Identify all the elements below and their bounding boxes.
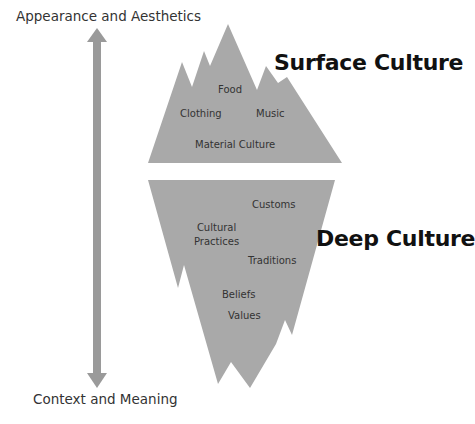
deep-iceberg-shape	[148, 180, 335, 388]
surface-item-clothing: Clothing	[180, 108, 222, 119]
deep-item-cultural-practices: Cultural Practices	[194, 221, 239, 249]
cultural-practices-line-1: Cultural	[194, 221, 239, 235]
cultural-practices-line-2: Practices	[194, 235, 239, 249]
surface-culture-title: Surface Culture	[274, 50, 463, 75]
deep-item-values: Values	[228, 310, 261, 321]
deep-item-beliefs: Beliefs	[222, 289, 255, 300]
surface-item-material-culture: Material Culture	[195, 139, 275, 150]
deep-culture-title: Deep Culture	[316, 226, 475, 251]
axis-bottom-label: Context and Meaning	[33, 391, 178, 407]
double-arrow-icon	[87, 28, 107, 388]
axis-top-label: Appearance and Aesthetics	[16, 8, 201, 24]
deep-item-traditions: Traditions	[248, 255, 296, 266]
deep-item-customs: Customs	[252, 199, 296, 210]
surface-item-music: Music	[256, 108, 284, 119]
surface-item-food: Food	[218, 84, 242, 95]
